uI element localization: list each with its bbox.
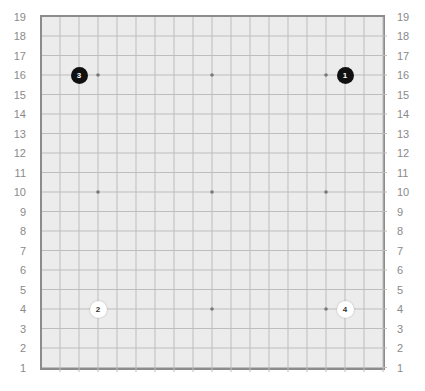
row-label-right: 12 (397, 147, 417, 159)
row-label-left: 19 (6, 11, 26, 23)
star-point (96, 73, 100, 77)
row-label-left: 6 (6, 264, 26, 276)
row-label-left: 7 (6, 245, 26, 257)
row-label-left: 2 (6, 342, 26, 354)
row-label-right: 9 (397, 206, 417, 218)
move-number: 1 (343, 71, 347, 80)
black-stone[interactable]: 1 (337, 67, 354, 84)
row-label-right: 8 (397, 225, 417, 237)
star-point (324, 307, 328, 311)
row-label-right: 13 (397, 128, 417, 140)
row-label-right: 18 (397, 30, 417, 42)
row-label-left: 16 (6, 69, 26, 81)
row-label-right: 19 (397, 11, 417, 23)
move-number: 3 (77, 71, 81, 80)
board-grid (42, 17, 387, 372)
star-point (96, 190, 100, 194)
white-stone[interactable]: 2 (90, 301, 107, 318)
row-label-left: 4 (6, 303, 26, 315)
row-label-left: 1 (6, 362, 26, 374)
row-label-right: 1 (397, 362, 417, 374)
row-label-left: 18 (6, 30, 26, 42)
row-label-left: 13 (6, 128, 26, 140)
row-label-left: 9 (6, 206, 26, 218)
row-label-left: 11 (6, 167, 26, 179)
star-point (210, 73, 214, 77)
row-label-right: 4 (397, 303, 417, 315)
row-label-right: 16 (397, 69, 417, 81)
row-label-right: 15 (397, 89, 417, 101)
row-label-left: 17 (6, 50, 26, 62)
star-point (324, 73, 328, 77)
row-label-right: 11 (397, 167, 417, 179)
row-label-left: 15 (6, 89, 26, 101)
row-label-right: 3 (397, 323, 417, 335)
move-number: 4 (343, 305, 347, 314)
row-label-left: 5 (6, 284, 26, 296)
row-label-left: 3 (6, 323, 26, 335)
row-label-left: 8 (6, 225, 26, 237)
go-board[interactable]: 1234 (40, 15, 385, 370)
row-label-right: 17 (397, 50, 417, 62)
row-label-right: 14 (397, 108, 417, 120)
row-label-right: 5 (397, 284, 417, 296)
go-board-view: 1234 19191818171716161515141413131212111… (0, 0, 425, 391)
row-label-right: 10 (397, 186, 417, 198)
move-number: 2 (96, 305, 100, 314)
star-point (210, 190, 214, 194)
row-label-right: 6 (397, 264, 417, 276)
row-label-left: 14 (6, 108, 26, 120)
star-point (210, 307, 214, 311)
white-stone[interactable]: 4 (337, 301, 354, 318)
row-label-left: 12 (6, 147, 26, 159)
star-point (324, 190, 328, 194)
row-label-right: 7 (397, 245, 417, 257)
black-stone[interactable]: 3 (71, 67, 88, 84)
row-label-left: 10 (6, 186, 26, 198)
row-label-right: 2 (397, 342, 417, 354)
